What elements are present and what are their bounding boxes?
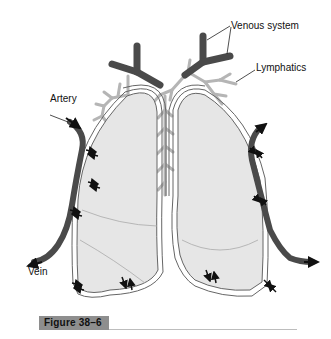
figure-caption-badge: Figure 38–6 <box>39 316 109 330</box>
lymphatics-leader-line <box>236 70 255 82</box>
venous-system <box>112 36 230 85</box>
lymphatics-label: Lymphatics <box>256 62 306 73</box>
artery-vessel <box>34 122 83 262</box>
artery-label: Artery <box>50 93 77 104</box>
lung-pleura-diagram <box>0 0 331 339</box>
right-lung <box>169 85 268 296</box>
left-lung <box>72 85 166 297</box>
figure-caption-rule <box>109 329 297 330</box>
venous-system-label: Venous system <box>231 20 299 31</box>
venous-leader-lines <box>207 26 231 54</box>
artery-leader-line <box>50 115 68 122</box>
vein-label: Vein <box>28 266 47 277</box>
